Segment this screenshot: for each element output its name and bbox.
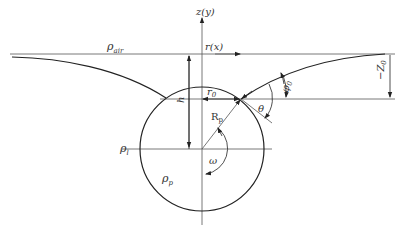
z-axis-label: z(y) <box>195 6 215 17</box>
theta-arc <box>265 84 273 118</box>
r-axis-label: r(x) <box>205 41 223 52</box>
phi0-label: φ0 <box>279 79 294 93</box>
rp-label: Rp <box>211 111 224 124</box>
h-label: h <box>175 97 186 103</box>
meniscus-diagram: z(y) r(x) ρair ρl ρp r0 Rp h ω θ φ0 −Z0 <box>0 0 402 234</box>
omega-arc <box>206 130 228 174</box>
meniscus-right <box>241 54 385 99</box>
meniscus-arrow <box>242 91 252 99</box>
rho-air-label: ρair <box>106 40 124 55</box>
meniscus-left <box>12 57 166 98</box>
phi0-arc-start <box>281 73 284 84</box>
omega-label: ω <box>209 155 217 166</box>
rho-liquid-label: ρl <box>119 142 129 157</box>
radius-line <box>202 100 240 149</box>
rho-particle-label: ρp <box>161 172 173 187</box>
z0-label: −Z0 <box>375 60 388 80</box>
theta-label: θ <box>258 103 264 114</box>
